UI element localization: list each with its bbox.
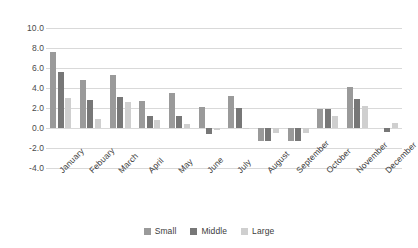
bar-group bbox=[194, 28, 224, 168]
bar-large bbox=[214, 128, 220, 130]
bar-large bbox=[65, 98, 71, 128]
bar-small bbox=[199, 107, 205, 128]
y-axis-tick-label: 0.0 bbox=[4, 123, 44, 133]
bar-small bbox=[50, 52, 56, 128]
bar-small bbox=[347, 87, 353, 128]
bar-large bbox=[332, 116, 338, 128]
bar-group bbox=[224, 28, 254, 168]
bar-middle bbox=[295, 128, 301, 141]
bar-middle bbox=[384, 128, 390, 132]
bar-small bbox=[80, 80, 86, 128]
bar-middle bbox=[206, 128, 212, 134]
bar-group bbox=[254, 28, 284, 168]
bar-large bbox=[392, 123, 398, 128]
bar-middle bbox=[147, 116, 153, 129]
bar-middle bbox=[58, 72, 64, 128]
bar-large bbox=[184, 124, 190, 128]
bar-small bbox=[110, 75, 116, 128]
legend-swatch-icon bbox=[190, 228, 197, 235]
y-axis-tick-label: 6.0 bbox=[4, 63, 44, 73]
bar-groups bbox=[46, 28, 402, 168]
legend-item[interactable]: Large bbox=[241, 226, 274, 236]
plot-area bbox=[46, 28, 402, 168]
bar-group bbox=[283, 28, 313, 168]
bar-group bbox=[135, 28, 165, 168]
y-axis-tick-label: 8.0 bbox=[4, 43, 44, 53]
bar-large bbox=[125, 102, 131, 128]
y-axis-tick-label: -4.0 bbox=[4, 163, 44, 173]
legend-swatch-icon bbox=[241, 228, 248, 235]
bar-small bbox=[288, 128, 294, 141]
bar-middle bbox=[354, 99, 360, 128]
legend-item[interactable]: Small bbox=[144, 226, 177, 236]
bar-small bbox=[139, 101, 145, 128]
bar-large bbox=[243, 128, 249, 129]
bar-large bbox=[303, 128, 309, 133]
bar-small bbox=[258, 128, 264, 141]
y-axis-tick-label: 2.0 bbox=[4, 103, 44, 113]
bar-large bbox=[362, 106, 368, 128]
legend-label: Middle bbox=[201, 226, 227, 236]
legend-label: Large bbox=[252, 226, 274, 236]
y-axis-tick-label: 4.0 bbox=[4, 83, 44, 93]
bar-middle bbox=[176, 116, 182, 129]
chart-legend: SmallMiddleLarge bbox=[0, 226, 418, 236]
bar-large bbox=[273, 128, 279, 133]
bar-small bbox=[228, 96, 234, 128]
legend-label: Small bbox=[155, 226, 177, 236]
bar-group bbox=[46, 28, 76, 168]
bar-chart: 10.08.06.04.02.00.0-2.0-4.0 JanuaryFebua… bbox=[0, 0, 418, 248]
bar-middle bbox=[117, 97, 123, 128]
legend-item[interactable]: Middle bbox=[190, 226, 227, 236]
bar-middle bbox=[265, 128, 271, 141]
legend-swatch-icon bbox=[144, 228, 151, 235]
bar-large bbox=[95, 119, 101, 128]
y-axis-tick-label: -2.0 bbox=[4, 143, 44, 153]
bar-large bbox=[154, 120, 160, 128]
y-axis-tick-label: 10.0 bbox=[4, 23, 44, 33]
bar-middle bbox=[87, 100, 93, 129]
bar-small bbox=[169, 93, 175, 129]
bar-middle bbox=[325, 109, 331, 128]
y-axis: 10.08.06.04.02.00.0-2.0-4.0 bbox=[0, 28, 44, 168]
x-axis: JanuaryFebuaryMarchAprilMayJuneJulyAugus… bbox=[46, 168, 402, 224]
bar-middle bbox=[236, 108, 242, 128]
bar-group bbox=[165, 28, 195, 168]
bar-small bbox=[317, 109, 323, 128]
